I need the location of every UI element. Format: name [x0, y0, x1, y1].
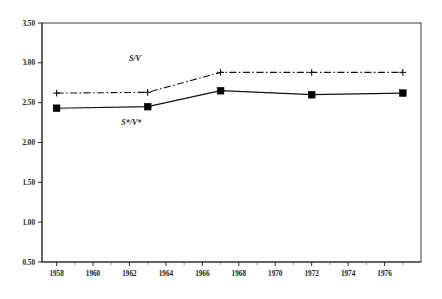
x-axis-tick-label: 1972	[304, 270, 319, 278]
x-axis-tick-label: 1964	[159, 270, 174, 278]
data-point-marker	[399, 90, 406, 97]
y-axis-tick-label: 2.50	[22, 99, 35, 107]
chart-canvas: 0.501.001.502.002.503.003.50195819601962…	[0, 0, 442, 299]
y-axis-tick-label: 1.00	[22, 219, 35, 227]
x-axis-tick-label: 1976	[377, 270, 392, 278]
series-annotation-2: S*/V*	[121, 118, 142, 127]
x-axis-tick-label: 1970	[268, 270, 283, 278]
y-axis-tick-label: 0.50	[22, 259, 35, 267]
plot-frame	[42, 23, 421, 262]
series-line-2	[57, 91, 403, 109]
series-annotation-1: S/V	[129, 54, 142, 63]
x-axis-tick-label: 1974	[341, 270, 356, 278]
y-axis-tick-label: 3.50	[22, 20, 35, 28]
data-point-marker	[53, 105, 60, 112]
y-axis-tick-label: 1.50	[22, 179, 35, 187]
data-point-marker	[144, 103, 151, 110]
x-axis-tick-label: 1968	[232, 270, 247, 278]
x-axis-tick-label: 1960	[86, 270, 101, 278]
x-axis-tick-label: 1962	[122, 270, 137, 278]
data-point-marker	[217, 87, 224, 94]
data-point-marker	[308, 91, 315, 98]
line-chart: 0.501.001.502.002.503.003.50195819601962…	[0, 0, 442, 299]
x-axis-tick-label: 1958	[49, 270, 64, 278]
series-line-1	[57, 72, 403, 93]
y-axis-tick-label: 2.00	[22, 139, 35, 147]
y-axis-tick-label: 3.00	[22, 59, 35, 67]
x-axis-tick-label: 1966	[195, 270, 210, 278]
